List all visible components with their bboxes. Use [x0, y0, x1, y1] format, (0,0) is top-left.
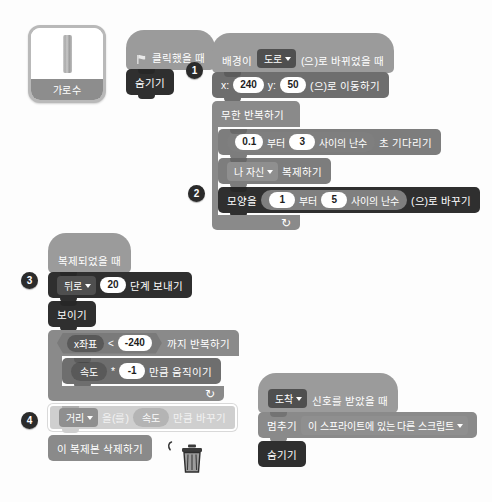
sprite-name-label: 가로수	[31, 79, 103, 100]
repeat-until-suffix: 까지 반복하기	[167, 336, 230, 351]
block-hide-2[interactable]: 숨기기	[258, 441, 306, 467]
block-move-steps[interactable]: 속도 * -1 만큼 움직이기	[62, 358, 221, 384]
block-repeat-until[interactable]: x좌표 < -240 까지 반복하기 속도 * -1 만큼 움직이기	[48, 330, 239, 401]
script-when-backdrop-switches[interactable]: 배경이 도로 (으)로 바뀌었을 때 x: 240 y: 50 (으)로 이동하…	[212, 33, 492, 230]
reporter-speed-variable[interactable]: 속도	[71, 362, 107, 381]
reporter-pick-random-wait[interactable]: 0.1 부터 3 사이의 난수	[227, 132, 375, 152]
block-show[interactable]: 보이기	[48, 301, 96, 327]
block-forever[interactable]: 무한 반복하기 0.1 부터 3 사이의 난수 초 기다리기	[212, 101, 492, 230]
block-hide-label: 숨기기	[135, 75, 165, 90]
hat-clone-label: 복제되었을 때	[58, 253, 121, 268]
reporter-pick-random-costume[interactable]: 1 부터 5 사이의 난수	[261, 190, 407, 210]
mouse-cursor-icon	[166, 440, 177, 457]
marker-2: 2	[188, 185, 205, 202]
block-switch-costume[interactable]: 모양을 1 부터 5 사이의 난수 (으)로 바꾸기	[218, 187, 480, 213]
wait-random-from-label: 부터	[267, 135, 285, 150]
sprite-thumbnail-card[interactable]: 가로수	[28, 25, 106, 103]
marker-4: 4	[21, 412, 38, 429]
costume-random-from-label: 부터	[299, 193, 317, 208]
go-back-direction-dropdown[interactable]: 뒤로	[57, 276, 96, 295]
marker-3: 3	[21, 272, 38, 289]
reporter-x-position[interactable]: x좌표	[67, 335, 104, 352]
switch-costume-suffix: (으)로 바꾸기	[411, 193, 471, 208]
script-when-i-receive[interactable]: 도착 신호를 받았을 때 멈추기 이 스프라이트에 있는 다른 스크립트 숨기기	[258, 373, 477, 467]
message-dropdown[interactable]: 도착	[268, 389, 307, 408]
goto-x-input[interactable]: 240	[233, 77, 264, 93]
wait-random-to[interactable]: 3	[289, 134, 315, 150]
change-variable-dropdown[interactable]: 거리	[59, 408, 98, 427]
hat-when-backdrop-switches[interactable]: 배경이 도로 (으)로 바뀌었을 때	[212, 33, 394, 73]
wait-random-to-label: 사이의 난수	[319, 135, 367, 150]
block-stop-other-scripts[interactable]: 멈추기 이 스프라이트에 있는 다른 스크립트	[258, 412, 477, 438]
goto-suffix: (으)로 이동하기	[310, 78, 380, 93]
block-change-variable-highlighted[interactable]: 거리 을(를) 속도 만큼 바꾸기	[48, 404, 237, 431]
block-create-clone[interactable]: 나 자신 복제하기	[218, 158, 331, 184]
change-variable-particle: 을(를)	[102, 410, 129, 425]
reporter-speed-in-change[interactable]: 속도	[133, 408, 169, 427]
loop-arrow-icon-2: ↻	[205, 388, 215, 400]
hat-backdrop-prefix: 배경이	[222, 53, 252, 68]
move-suffix: 만큼 움직이기	[149, 364, 212, 379]
goto-x-label: x:	[221, 79, 229, 91]
goto-y-label: y:	[268, 79, 276, 91]
wait-suffix: 초 기다리기	[379, 135, 432, 150]
forever-foot: ↻	[212, 215, 300, 230]
less-than-operator: <	[108, 338, 114, 349]
clone-suffix: 복제하기	[282, 164, 322, 179]
hat-when-flag-clicked[interactable]: 클릭했을 때	[126, 30, 215, 70]
backdrop-dropdown[interactable]: 도로	[257, 49, 296, 68]
block-hide[interactable]: 숨기기	[126, 69, 174, 95]
block-go-to-xy[interactable]: x: 240 y: 50 (으)로 이동하기	[212, 72, 389, 98]
repeat-until-header: x좌표 < -240 까지 반복하기	[48, 330, 239, 356]
script-canvas: 가로수 클릭했을 때 숨기기 1 배경이 도로 (으)로 바뀌었을 때	[0, 0, 492, 502]
forever-label: 무한 반복하기	[221, 107, 284, 122]
block-wait-seconds[interactable]: 0.1 부터 3 사이의 난수 초 기다리기	[218, 129, 441, 155]
wait-random-from[interactable]: 0.1	[235, 134, 263, 150]
hat-receive-suffix: 신호를 받았을 때	[312, 393, 388, 408]
stop-target-dropdown[interactable]: 이 스프라이트에 있는 다른 스크립트	[301, 416, 468, 435]
loop-arrow-icon: ↻	[281, 217, 291, 229]
block-delete-this-clone[interactable]: 이 복제본 삭제하기	[48, 435, 152, 461]
block-show-label: 보이기	[57, 307, 87, 322]
change-variable-suffix: 만큼 바꾸기	[173, 410, 226, 425]
goto-y-input[interactable]: 50	[280, 77, 306, 93]
less-than-right-input[interactable]: -240	[118, 335, 152, 351]
costume-random-to-label: 사이의 난수	[351, 193, 399, 208]
trash-can-icon[interactable]	[180, 443, 204, 473]
go-back-suffix: 단계 보내기	[130, 278, 183, 293]
block-go-back-layers[interactable]: 뒤로 20 단계 보내기	[48, 272, 192, 298]
hat-when-i-receive[interactable]: 도착 신호를 받았을 때	[258, 373, 398, 413]
script-when-i-start-as-clone[interactable]: 복제되었을 때 뒤로 20 단계 보내기 보이기 x좌표 < -240 까지	[48, 233, 239, 461]
multiply-operator: *	[111, 365, 115, 377]
hat-when-i-start-as-clone[interactable]: 복제되었을 때	[48, 233, 131, 273]
stop-prefix: 멈추기	[267, 418, 297, 433]
go-back-layers-input[interactable]: 20	[100, 277, 126, 293]
move-multiplier-input[interactable]: -1	[119, 363, 145, 379]
boolean-less-than[interactable]: x좌표 < -240	[57, 333, 162, 354]
script-when-flag-clicked[interactable]: 클릭했을 때 숨기기	[126, 30, 215, 95]
clone-target-dropdown[interactable]: 나 자신	[227, 162, 278, 181]
green-flag-icon	[136, 54, 147, 65]
costume-random-to[interactable]: 5	[321, 192, 347, 208]
forever-label-row: 무한 반복하기	[212, 101, 300, 127]
hat-backdrop-suffix: (으)로 바뀌었을 때	[301, 53, 384, 68]
repeat-until-left-arm	[48, 356, 62, 386]
repeat-until-foot: ↻	[48, 386, 224, 401]
switch-costume-prefix: 모양을	[227, 193, 257, 208]
block-hide-2-label: 숨기기	[267, 447, 297, 462]
tree-trunk-icon	[63, 35, 72, 73]
delete-clone-label: 이 복제본 삭제하기	[57, 441, 143, 456]
marker-1: 1	[186, 62, 203, 79]
costume-random-from[interactable]: 1	[269, 192, 295, 208]
sprite-costume-preview	[31, 28, 103, 79]
